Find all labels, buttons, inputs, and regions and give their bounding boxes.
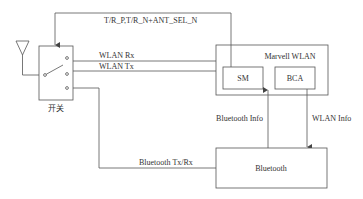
antenna-icon (16, 41, 39, 75)
bluetooth-block: Bluetooth (216, 148, 327, 188)
wlan-bluetooth-coexistence-diagram: 开关 T/R_P,T/R_N+ANT_SEL_N WLAN Rx WLAN Tx… (0, 0, 363, 199)
wlan-tx-label: WLAN Tx (99, 62, 134, 71)
bluetooth-info-label: Bluetooth Info (216, 114, 263, 123)
switch-label: 开关 (48, 103, 64, 113)
bluetooth-label: Bluetooth (255, 164, 287, 173)
info-arrows (268, 89, 307, 148)
control-signal-label: T/R_P,T/R_N+ANT_SEL_N (104, 16, 197, 25)
bca-label: BCA (287, 74, 304, 83)
wlan-lines (73, 61, 216, 71)
wlan-info-label: WLAN Info (312, 114, 351, 123)
wlan-rx-label: WLAN Rx (99, 51, 134, 60)
bluetooth-txrx-line (73, 88, 216, 168)
marvell-wlan-label: Marvell WLAN (264, 52, 315, 61)
switch-block: 开关 (39, 46, 73, 113)
bluetooth-txrx-label: Bluetooth Tx/Rx (139, 158, 193, 167)
sm-label: SM (237, 74, 249, 83)
marvell-wlan-block: Marvell WLAN SM BCA (216, 45, 328, 95)
